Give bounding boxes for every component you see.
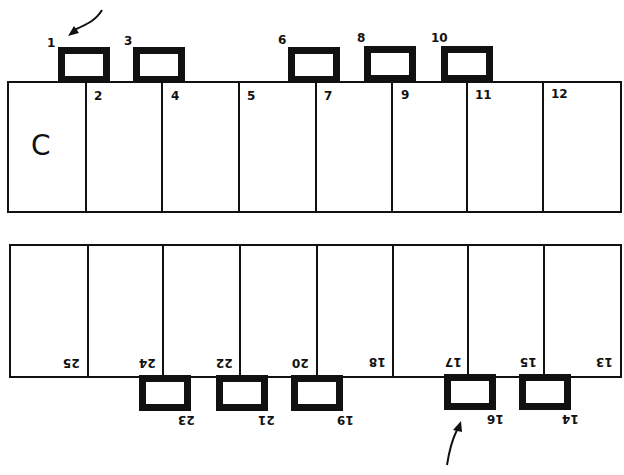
arrow-to-tab-16-icon xyxy=(0,0,624,475)
